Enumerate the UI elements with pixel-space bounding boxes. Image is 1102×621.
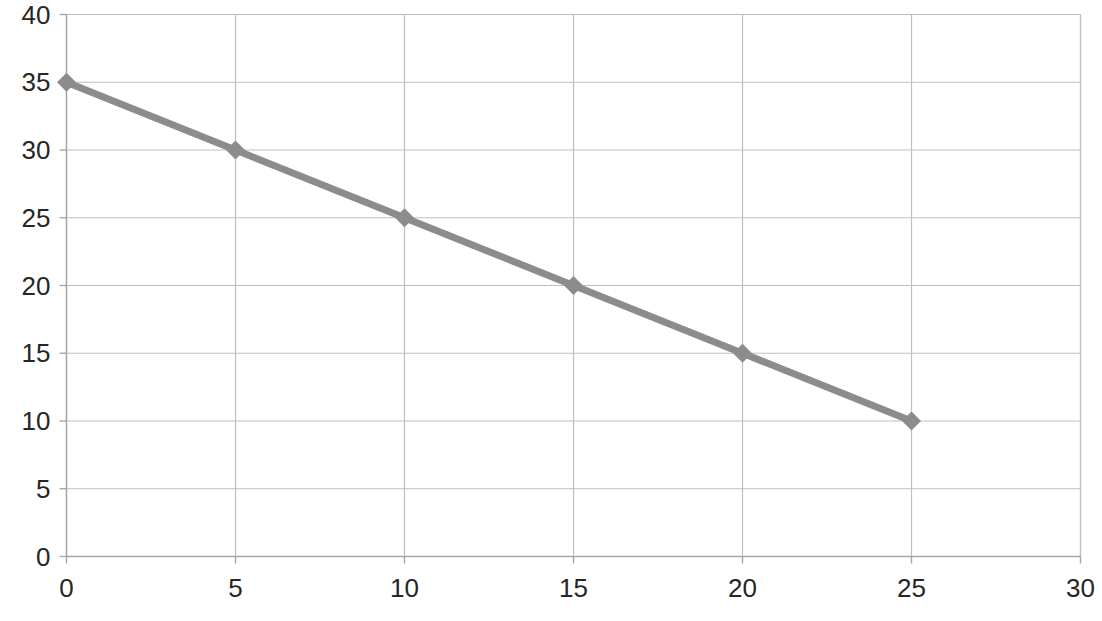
x-tick-label: 15: [559, 573, 588, 603]
x-tick-label: 0: [59, 573, 73, 603]
x-tick-label: 20: [728, 573, 757, 603]
y-tick-label: 35: [22, 67, 51, 97]
y-tick-label: 20: [22, 271, 51, 301]
x-tick-label: 30: [1066, 573, 1095, 603]
y-tick-label: 40: [22, 0, 51, 30]
y-tick-label: 0: [36, 542, 50, 572]
y-tick-label: 25: [22, 203, 51, 233]
y-tick-label: 30: [22, 135, 51, 165]
y-tick-label: 10: [22, 406, 51, 436]
x-tick-label: 10: [390, 573, 419, 603]
chart-container: 4035302520151050 051015202530: [0, 0, 1102, 621]
x-tick-label: 25: [897, 573, 926, 603]
line-chart: 4035302520151050 051015202530: [0, 0, 1102, 621]
x-tick-label: 5: [228, 573, 242, 603]
y-tick-label: 15: [22, 338, 51, 368]
chart-background: [0, 0, 1102, 621]
y-tick-label: 5: [36, 474, 50, 504]
